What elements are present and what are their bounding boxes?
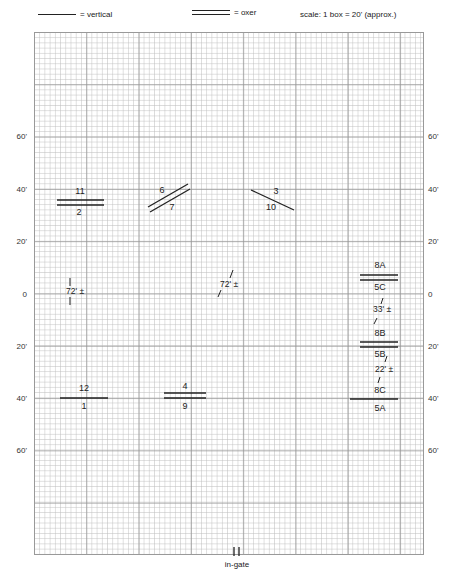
in-gate-label: in-gate — [225, 560, 249, 569]
fence-8B-5B — [360, 342, 398, 347]
fence-4-9 — [164, 393, 206, 398]
fence-label-3: 3 — [273, 186, 278, 196]
fence-label-6: 6 — [159, 185, 164, 195]
in-gate-marker — [234, 547, 239, 556]
fence-label-4: 4 — [182, 381, 187, 391]
fence-label-5A: 5A — [374, 403, 385, 413]
distance-combo-b-c: 22' ± — [375, 364, 393, 374]
distance-left-line: 72' ± — [66, 286, 84, 296]
fence-label-9: 9 — [182, 401, 187, 411]
fence-label-5C: 5C — [374, 282, 386, 292]
fence-8A-5C — [360, 275, 398, 280]
fence-label-11: 11 — [75, 186, 84, 196]
fence-label-1: 1 — [81, 401, 86, 411]
fence-label-2: 2 — [76, 207, 81, 217]
fence-label-5B: 5B — [374, 349, 385, 359]
fence-label-7: 7 — [169, 202, 174, 212]
distance-center-line: 72' ± — [220, 279, 238, 289]
distance-combo-a-b: 33' ± — [373, 304, 391, 314]
fence-11-2 — [57, 200, 104, 205]
fence-label-8B: 8B — [374, 328, 385, 338]
fence-label-8C: 8C — [374, 385, 386, 395]
fence-label-10: 10 — [266, 202, 276, 212]
fence-label-8A: 8A — [374, 260, 385, 270]
fence-label-12: 12 — [79, 383, 89, 393]
